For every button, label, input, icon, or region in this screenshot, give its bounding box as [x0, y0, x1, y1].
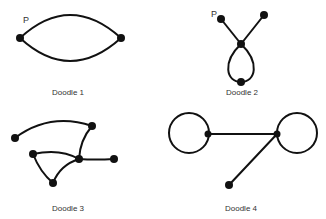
- doodle-2-vertex: [217, 15, 225, 23]
- doodle-4-caption: Doodle 4: [225, 204, 258, 213]
- doodle-3-caption: Doodle 3: [52, 204, 85, 213]
- doodle-3-vertex: [49, 179, 57, 187]
- doodle-3-vertex: [110, 155, 118, 163]
- doodle-3-vertex: [75, 155, 83, 163]
- doodle-1-graph: [20, 15, 121, 61]
- doodle-2-caption: Doodle 2: [226, 88, 259, 97]
- doodle-1-vertex: [117, 34, 125, 42]
- doodle-3-vertex: [88, 122, 96, 130]
- doodles-figure: P P Doodle 1 Doodle 2 Doodle 3 Doodle 4: [0, 0, 326, 219]
- doodle-1-point-label: P: [23, 15, 29, 25]
- doodle-2-vertex: [237, 78, 245, 86]
- doodle-4-graph: [169, 113, 317, 185]
- doodle-4-vertex: [225, 181, 233, 189]
- doodle-2-vertex: [237, 40, 245, 48]
- doodle-2-graph: [221, 15, 264, 82]
- doodle-4-vertex: [274, 131, 281, 138]
- doodle-1-caption: Doodle 1: [52, 88, 85, 97]
- doodle-1-vertex: [16, 34, 24, 42]
- doodle-4-vertex: [205, 131, 212, 138]
- doodle-3-vertex: [11, 134, 19, 142]
- doodle-3-vertex: [29, 150, 37, 158]
- doodle-2-point-label: P: [211, 9, 217, 19]
- doodle-2-vertex: [260, 11, 268, 19]
